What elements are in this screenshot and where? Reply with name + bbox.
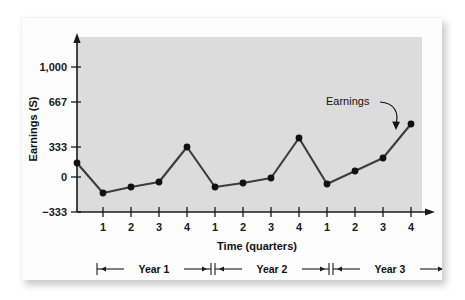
bracket-year-2: Year 2: [215, 263, 329, 275]
y-tick-label-333: 333: [49, 141, 67, 153]
earnings-line-chart: 1,000 667 333 0 −333 Earnings (S) 1: [21, 17, 442, 280]
x-tick-label-y3q3: 3: [380, 221, 386, 233]
bracket-year-3-label: Year 3: [375, 263, 406, 275]
x-tick-label-y3q4: 4: [408, 221, 415, 233]
data-point: [100, 190, 107, 197]
bracket-year-1: Year 1: [97, 263, 211, 275]
x-tick-label-y2q4: 4: [296, 221, 303, 233]
x-axis: 1 2 3 4 1 2 3 4 1 2 3 4 Time (quarters): [77, 207, 435, 252]
y-tick-label-0: 0: [61, 171, 67, 183]
x-tick-label-y2q2: 2: [240, 221, 246, 233]
data-point: [212, 184, 219, 191]
x-axis-arrowhead: [425, 208, 435, 215]
data-point: [268, 175, 275, 182]
y-axis-title: Earnings (S): [27, 96, 39, 161]
data-point: [352, 168, 359, 175]
x-axis-title: Time (quarters): [217, 240, 297, 252]
y-tick-label-1000: 1,000: [39, 61, 67, 73]
data-point: [156, 179, 163, 186]
figure-root: 1,000 667 333 0 −333 Earnings (S) 1: [0, 0, 465, 300]
data-point: [408, 121, 415, 128]
y-tick-label-667: 667: [49, 96, 67, 108]
data-point: [296, 135, 303, 142]
x-tick-label-y2q1: 1: [212, 221, 218, 233]
data-point: [74, 160, 81, 167]
data-point: [184, 144, 191, 151]
data-point: [324, 181, 331, 188]
data-point: [128, 184, 135, 191]
x-tick-label-y3q2: 2: [352, 221, 358, 233]
y-axis: 1,000 667 333 0 −333 Earnings (S): [27, 33, 81, 218]
x-tick-label-y2q3: 3: [268, 221, 274, 233]
x-tick-label-y1q1: 1: [100, 221, 106, 233]
y-tick-label-neg333: −333: [42, 206, 67, 218]
x-tick-label-y1q3: 3: [156, 221, 162, 233]
earnings-annotation-label: Earnings: [326, 95, 370, 107]
x-tick-label-y1q2: 2: [128, 221, 134, 233]
x-tick-label-y1q4: 4: [184, 221, 191, 233]
bracket-year-3: Year 3: [333, 263, 442, 275]
data-point: [380, 155, 387, 162]
x-tick-label-y3q1: 1: [324, 221, 330, 233]
bracket-year-2-label: Year 2: [257, 263, 288, 275]
year-brackets: Year 1 Year 2 Year 3: [97, 263, 442, 275]
data-point: [240, 180, 247, 187]
bracket-year-1-label: Year 1: [139, 263, 170, 275]
